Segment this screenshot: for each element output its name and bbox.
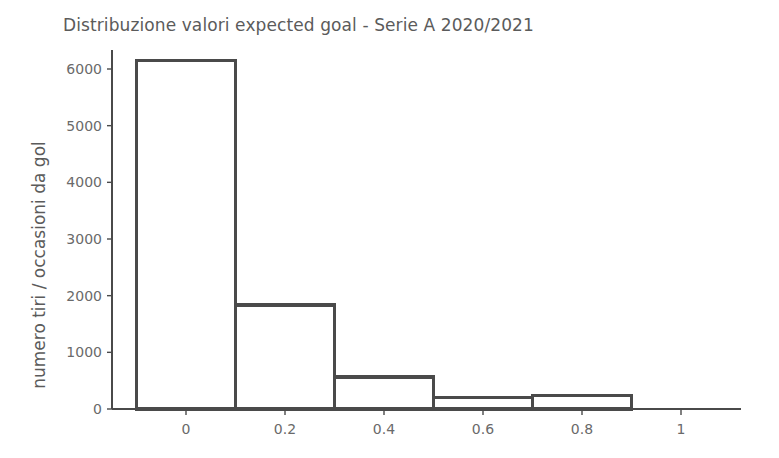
y-tick-label-3: 3000 xyxy=(42,232,102,246)
x-tick-label-5: 1 xyxy=(651,422,711,436)
bar-4 xyxy=(533,396,632,409)
bar-0 xyxy=(137,61,236,410)
bar-rect-1 xyxy=(236,305,335,409)
bars-group xyxy=(137,61,632,410)
y-tick-label-4: 4000 xyxy=(42,175,102,189)
bar-1 xyxy=(236,305,335,409)
x-tick-label-4: 0.8 xyxy=(552,422,612,436)
bar-3 xyxy=(434,398,533,409)
x-tick-label-2: 0.4 xyxy=(354,422,414,436)
y-tick-label-2: 2000 xyxy=(42,289,102,303)
x-tick-label-3: 0.6 xyxy=(453,422,513,436)
bar-rect-0 xyxy=(137,61,236,410)
y-tick-label-5: 5000 xyxy=(42,119,102,133)
plot-area xyxy=(0,0,779,458)
y-tick-label-1: 1000 xyxy=(42,345,102,359)
bar-rect-4 xyxy=(533,396,632,409)
bar-rect-2 xyxy=(335,377,434,409)
bar-rect-3 xyxy=(434,398,533,409)
y-tick-label-6: 6000 xyxy=(42,62,102,76)
bar-2 xyxy=(335,377,434,409)
y-tick-label-0: 0 xyxy=(42,402,102,416)
chart-container: Distribuzione valori expected goal - Ser… xyxy=(0,0,779,458)
x-tick-label-1: 0.2 xyxy=(255,422,315,436)
x-tick-label-0: 0 xyxy=(156,422,216,436)
